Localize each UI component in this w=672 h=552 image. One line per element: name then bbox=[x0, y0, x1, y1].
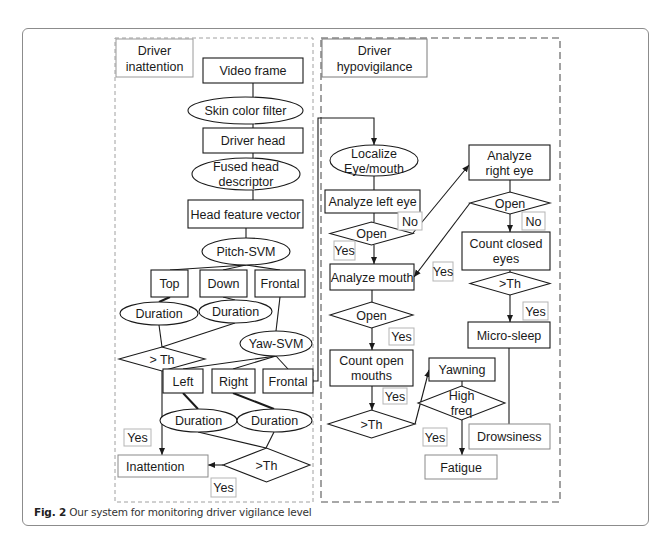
node-label: High bbox=[449, 389, 475, 403]
node-duration-down: Duration bbox=[199, 300, 272, 323]
node-label: Right bbox=[219, 375, 249, 389]
node-label: Analyze bbox=[487, 149, 532, 163]
tag-label: Yes bbox=[525, 305, 545, 319]
node-label: Duration bbox=[251, 414, 298, 428]
line-connector bbox=[159, 325, 162, 347]
node-label: Count closed bbox=[470, 237, 543, 251]
caption-text: Our system for monitoring driver vigilan… bbox=[69, 506, 311, 518]
figure-caption: Fig. 2 Our system for monitoring driver … bbox=[34, 506, 311, 518]
node-count-closed: Count closedeyes bbox=[462, 232, 550, 270]
node-label: Inattention bbox=[126, 460, 184, 474]
node-frontal-pitch: Frontal bbox=[255, 270, 305, 297]
panel-title-line: hypovigilance bbox=[337, 60, 413, 74]
node-label: Analyze mouth bbox=[331, 271, 414, 285]
panel-title-line: inattention bbox=[126, 60, 184, 74]
node-analyze-right: Analyzeright eye bbox=[469, 145, 550, 180]
node-driver-head: Driver head bbox=[203, 128, 303, 153]
node-left: Left bbox=[163, 369, 203, 393]
node-frontal-yaw: Frontal bbox=[263, 369, 313, 393]
node-th-mouth: >Th bbox=[328, 410, 415, 438]
node-label: >Th bbox=[361, 418, 383, 432]
node-label: Down bbox=[208, 277, 240, 291]
node-label: Duration bbox=[175, 414, 222, 428]
flowchart: Driver inattention Driver hypovigilance … bbox=[0, 0, 672, 552]
node-th-yaw: >Th bbox=[223, 448, 310, 482]
tag-yes-inatt-1: Yes bbox=[124, 429, 151, 446]
line-connector bbox=[233, 356, 276, 369]
node-yawning: Yawning bbox=[429, 358, 495, 381]
node-localize: LocalizeEye/mouth bbox=[330, 145, 418, 176]
tag-label: Yes bbox=[391, 330, 411, 344]
node-analyze-mouth: Analyze mouth bbox=[330, 264, 414, 290]
tag-yes-right: Yes bbox=[433, 262, 453, 281]
tag-yes-freq: Yes bbox=[423, 428, 447, 446]
line-connector bbox=[266, 432, 274, 448]
node-inattention: Inattention bbox=[118, 455, 208, 477]
node-th-eyes: >Th bbox=[470, 272, 550, 295]
node-label: Yaw-SVM bbox=[249, 337, 304, 351]
node-label: Yawning bbox=[438, 363, 485, 377]
line-connector bbox=[183, 393, 198, 409]
node-micro-sleep: Micro-sleep bbox=[468, 322, 550, 348]
node-label: Driver head bbox=[221, 134, 286, 148]
node-label: Open bbox=[356, 309, 387, 323]
node-label: descriptor bbox=[219, 175, 274, 189]
node-label: Pitch-SVM bbox=[216, 245, 275, 259]
node-yaw-svm: Yaw-SVM bbox=[240, 331, 312, 356]
node-label: Duration bbox=[212, 305, 259, 319]
tag-label: Yes bbox=[334, 244, 354, 258]
node-label: Video frame bbox=[219, 64, 286, 78]
node-video-frame: Video frame bbox=[203, 58, 303, 83]
node-label: Head feature vector bbox=[191, 208, 301, 222]
line-connector bbox=[159, 297, 170, 302]
tag-label: No bbox=[402, 215, 418, 229]
node-label: Open bbox=[356, 227, 387, 241]
caption-label: Fig. 2 bbox=[34, 506, 66, 518]
node-label: Duration bbox=[135, 307, 182, 321]
tag-yes-eyes: Yes bbox=[523, 302, 548, 320]
tag-yes-count: Yes bbox=[383, 388, 407, 404]
node-skin-filter: Skin color filter bbox=[188, 97, 303, 124]
tag-label: Yes bbox=[127, 431, 147, 445]
node-label: >Th bbox=[256, 459, 278, 473]
node-label: right eye bbox=[486, 164, 534, 178]
inattention-panel-title: Driver inattention bbox=[116, 39, 193, 77]
node-label: Open bbox=[495, 197, 526, 211]
node-duration-top: Duration bbox=[120, 302, 198, 325]
node-pitch-svm: Pitch-SVM bbox=[202, 238, 290, 265]
tag-yes-inatt-2: Yes bbox=[211, 478, 236, 497]
node-label: Top bbox=[159, 277, 179, 291]
node-high-freq: Highfreq bbox=[418, 386, 505, 420]
node-label: Frontal bbox=[261, 277, 300, 291]
line-connector bbox=[198, 432, 266, 448]
node-analyze-left: Analyze left eye bbox=[325, 190, 420, 213]
hypovigilance-panel-title: Driver hypovigilance bbox=[322, 39, 427, 77]
tag-no-left: No bbox=[398, 212, 422, 230]
nodes: Video frameSkin color filterDriver headF… bbox=[118, 58, 550, 482]
node-label: freq bbox=[451, 404, 473, 418]
line-connector bbox=[162, 323, 235, 347]
node-drowsiness: Drowsiness bbox=[469, 424, 550, 449]
node-open-mouth: Open bbox=[330, 302, 413, 328]
node-label: Analyze left eye bbox=[328, 195, 416, 209]
node-label: Left bbox=[173, 375, 194, 389]
node-count-open: Count openmouths bbox=[330, 350, 413, 386]
tag-label: No bbox=[526, 215, 542, 229]
node-fatigue: Fatigue bbox=[425, 455, 497, 479]
node-label: Count open bbox=[339, 354, 404, 368]
tag-label: Yes bbox=[385, 390, 405, 404]
line-connector bbox=[276, 297, 280, 331]
node-label: Drowsiness bbox=[477, 430, 542, 444]
tag-yes-mouth: Yes bbox=[389, 328, 414, 345]
node-top: Top bbox=[151, 270, 188, 297]
node-label: Frontal bbox=[269, 375, 308, 389]
node-duration-left: Duration bbox=[160, 409, 237, 432]
node-right: Right bbox=[212, 369, 255, 393]
node-label: Eye/mouth bbox=[344, 162, 404, 176]
node-label: Fatigue bbox=[440, 461, 482, 475]
node-label: Fused head bbox=[213, 160, 279, 174]
tag-yes-left: Yes bbox=[334, 241, 355, 260]
tag-label: Yes bbox=[213, 481, 233, 495]
tag-label: Yes bbox=[425, 431, 445, 445]
line-connector bbox=[246, 265, 280, 270]
